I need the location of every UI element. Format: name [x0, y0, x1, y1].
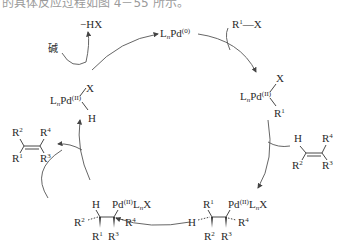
- insertion-intermediate: R1 Pd(II)LnX H R4 R2 R3: [188, 198, 267, 242]
- svg-text:R4: R4: [125, 216, 136, 228]
- catalyst-pd0: LnPd(0): [160, 27, 191, 41]
- svg-text:X: X: [276, 72, 284, 84]
- svg-text:Pd(II)LnX: Pd(II)LnX: [112, 198, 151, 212]
- reagent-in-arrow: [226, 28, 230, 50]
- svg-text:R1: R1: [92, 230, 103, 242]
- svg-text:R1—X: R1—X: [232, 18, 262, 30]
- svg-text:R3: R3: [40, 152, 51, 164]
- svg-text:R2: R2: [12, 126, 23, 138]
- reagent-r1x: R1—X: [232, 18, 262, 30]
- byproduct-hx: −HX: [80, 18, 102, 30]
- svg-text:R1: R1: [12, 152, 23, 164]
- svg-text:R2: R2: [292, 159, 303, 171]
- cycle-arc-right: [258, 120, 270, 188]
- alkene-reactant: H R4 R2 R3: [292, 132, 333, 171]
- heck-catalytic-cycle: LnPd(0) R1—X −HX 碱 LnPd(II) X R1 H R4 R2…: [0, 0, 348, 247]
- svg-text:R3: R3: [322, 159, 333, 171]
- cycle-arc-left: [79, 120, 90, 180]
- oxidative-adduct: LnPd(II) X R1: [240, 72, 285, 119]
- svg-text:R3: R3: [108, 230, 119, 242]
- svg-text:LnPd(0): LnPd(0): [160, 27, 191, 41]
- base-label: 碱: [48, 43, 58, 54]
- svg-text:R4: R4: [40, 126, 51, 138]
- alkene-in-arrow: [268, 142, 290, 147]
- svg-text:H: H: [88, 112, 96, 124]
- rotated-intermediate: H Pd(II)LnX R2 R4 R1 R3: [74, 198, 151, 242]
- svg-text:LnPd(II): LnPd(II): [240, 90, 272, 104]
- hx-out-arrow: [86, 32, 89, 62]
- hydride-complex: LnPd(II) X H: [50, 82, 96, 124]
- alkene-product: R2 R4 R1 R3: [12, 126, 51, 164]
- svg-text:X: X: [86, 82, 94, 94]
- svg-text:H: H: [92, 198, 100, 210]
- alkene-out-arrow: [58, 144, 82, 150]
- base-in-arrow: [62, 53, 86, 65]
- svg-text:R2: R2: [204, 230, 215, 242]
- cycle-arc-top-left: [92, 34, 158, 70]
- svg-text:Pd(II)LnX: Pd(II)LnX: [228, 198, 267, 212]
- svg-text:R4: R4: [238, 216, 249, 228]
- svg-text:R4: R4: [322, 132, 333, 144]
- svg-text:R1: R1: [203, 198, 214, 210]
- svg-text:R3: R3: [221, 230, 232, 242]
- svg-text:R1: R1: [274, 107, 285, 119]
- svg-text:H: H: [188, 216, 196, 228]
- svg-text:R2: R2: [74, 216, 85, 228]
- svg-text:H: H: [294, 132, 302, 144]
- svg-text:LnPd(II): LnPd(II): [50, 94, 82, 108]
